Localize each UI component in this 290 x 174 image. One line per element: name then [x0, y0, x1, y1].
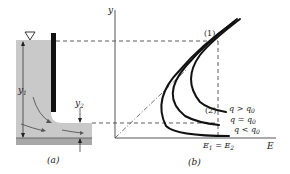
sluice-gate [51, 33, 56, 112]
e-axis-label: E [267, 142, 274, 151]
y2-label: y2 [75, 99, 84, 109]
e2-sub: 2 [230, 144, 234, 151]
curve-label-sub: 0 [252, 118, 256, 125]
point-2-label: (2) [205, 107, 216, 115]
sluice-gate-specific-energy-diagram [0, 0, 290, 174]
caption-b: (b) [188, 158, 201, 167]
curve-label-text: q = q [230, 115, 252, 124]
curve-q-less [161, 22, 234, 136]
curve-q-greater [191, 19, 240, 112]
point-1-label: (1) [204, 30, 215, 38]
curve-label-text: q > q [229, 104, 251, 113]
curve-label-q-greater: q > q0 [229, 105, 255, 114]
y1-label: y1 [18, 86, 27, 96]
free-surface-icon [25, 32, 35, 40]
y2-subscript: 2 [80, 102, 84, 109]
equals-sign: = [213, 141, 225, 150]
panel-a-drawing [16, 32, 92, 152]
specific-energy-curves [161, 19, 240, 136]
curve-label-q-less: q < q0 [234, 126, 260, 135]
curve-label-sub: 0 [256, 128, 260, 135]
y-axis-label: y [108, 6, 113, 15]
curve-label-text: q < q [234, 125, 256, 134]
curve-label-q-equal: q = q0 [230, 116, 256, 125]
energy-equal-label: E1 = E2 [203, 142, 234, 151]
curve-label-sub: 0 [251, 107, 255, 114]
caption-a: (a) [47, 156, 59, 165]
y1-subscript: 1 [23, 89, 27, 96]
